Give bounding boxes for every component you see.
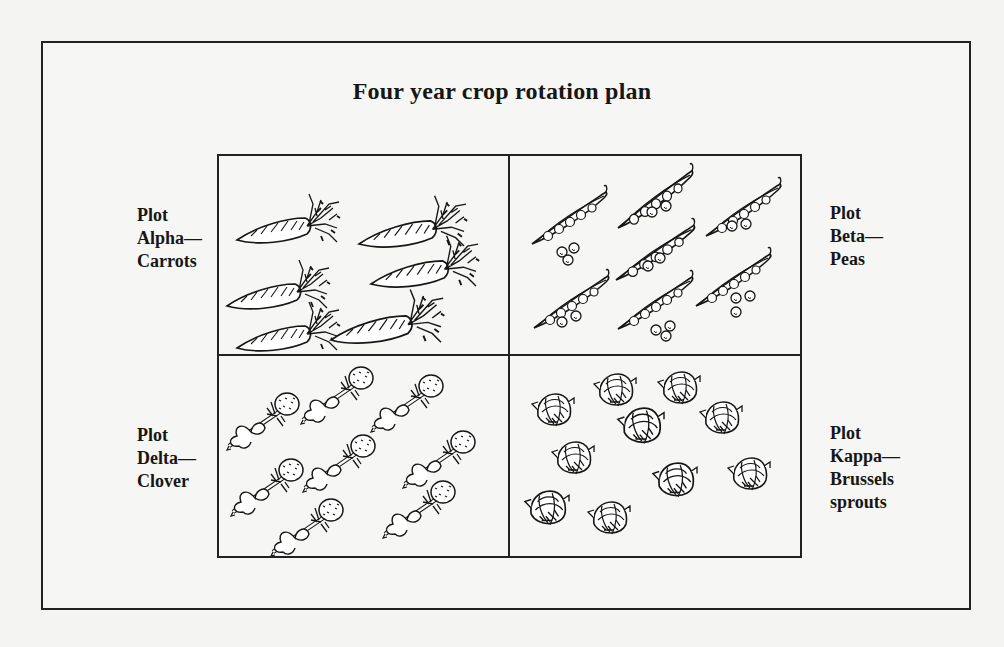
plot-grid bbox=[217, 154, 802, 558]
plot-label-line: Kappa— bbox=[830, 445, 900, 468]
plot-label-kappa: Plot Kappa— Brussels sprouts bbox=[830, 422, 900, 514]
plot-beta-peas bbox=[510, 156, 800, 354]
plot-label-line: Peas bbox=[830, 248, 883, 271]
plot-label-beta: Plot Beta— Peas bbox=[830, 202, 883, 271]
plot-label-line: Brussels bbox=[830, 468, 900, 491]
plot-label-line: Plot bbox=[830, 202, 883, 225]
plot-label-line: Clover bbox=[137, 470, 196, 493]
plot-label-line: Plot bbox=[830, 422, 900, 445]
plot-label-line: Beta— bbox=[830, 225, 883, 248]
plot-label-delta: Plot Delta— Clover bbox=[137, 424, 196, 493]
plot-kappa-brussels-sprouts bbox=[510, 356, 800, 556]
plot-label-line: Delta— bbox=[137, 447, 196, 470]
plot-label-line: Carrots bbox=[137, 250, 202, 273]
plot-label-line: Alpha— bbox=[137, 227, 202, 250]
plot-alpha-carrots bbox=[219, 156, 508, 354]
plot-label-line: Plot bbox=[137, 424, 196, 447]
plot-label-alpha: Plot Alpha— Carrots bbox=[137, 204, 202, 273]
diagram-title: Four year crop rotation plan bbox=[0, 78, 1004, 105]
plot-delta-clover bbox=[219, 356, 508, 556]
plot-label-line: Plot bbox=[137, 204, 202, 227]
plot-label-line: sprouts bbox=[830, 491, 900, 514]
